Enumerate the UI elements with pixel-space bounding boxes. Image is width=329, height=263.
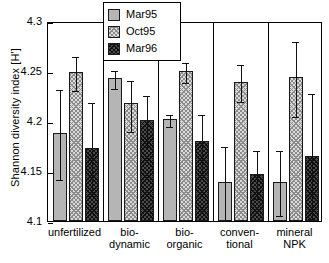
error-bar-line — [296, 42, 297, 117]
error-bar-line — [202, 115, 203, 175]
error-bar-cap-upper — [143, 96, 150, 97]
error-bar-cap-upper — [276, 151, 283, 152]
error-bar-line — [115, 71, 116, 89]
error-bar-cap-upper — [56, 90, 63, 91]
plot-inner — [48, 23, 321, 221]
error-bar-cap-lower — [166, 127, 173, 128]
y-tick-label: 4.25 — [12, 66, 42, 77]
error-bar-cap-upper — [221, 147, 228, 148]
error-bar-cap-lower — [127, 132, 134, 133]
bar — [179, 71, 193, 221]
error-bar-line — [131, 81, 132, 132]
error-bar-cap-lower — [308, 219, 315, 220]
error-bar-cap-upper — [198, 115, 205, 116]
y-tick-label: 4.15 — [12, 166, 42, 177]
legend-label: Mar96 — [126, 43, 157, 54]
y-tick-label: 4.1 — [12, 216, 42, 227]
error-bar-cap-lower — [182, 83, 189, 84]
error-bar-cap-lower — [237, 102, 244, 103]
legend-item[interactable]: Oct95 — [108, 23, 176, 40]
error-bar-line — [170, 115, 171, 127]
error-bar-cap-upper — [111, 71, 118, 72]
error-bar-line — [312, 94, 313, 219]
legend-swatch-icon — [108, 9, 120, 21]
error-bar-cap-upper — [253, 151, 260, 152]
group-separator — [268, 23, 269, 221]
y-tick-label: 4.3 — [12, 16, 42, 27]
error-bar-cap-lower — [111, 89, 118, 90]
chart-container: Shannon diversity index [H'] 4.14.154.24… — [0, 0, 329, 263]
y-tick-mark — [48, 23, 53, 24]
legend-item[interactable]: Mar96 — [108, 40, 176, 57]
y-tick-label: 4.2 — [12, 116, 42, 127]
bar — [69, 72, 83, 221]
y-tick-mark — [48, 223, 53, 224]
legend: Mar95Oct95Mar96 — [103, 2, 181, 61]
error-bar-cap-upper — [308, 94, 315, 95]
plot-area — [47, 22, 322, 222]
error-bar-cap-lower — [56, 180, 63, 181]
y-axis-tick-labels: 4.14.154.24.254.3 — [8, 0, 42, 263]
bar — [108, 78, 122, 221]
error-bar-line — [60, 90, 61, 180]
error-bar-cap-lower — [221, 221, 228, 222]
error-bar-line — [147, 96, 148, 147]
error-bar-line — [257, 151, 258, 199]
error-bar-line — [92, 103, 93, 196]
x-tick-label: mineral NPK — [261, 227, 328, 250]
error-bar-cap-lower — [292, 117, 299, 118]
error-bar-cap-upper — [182, 63, 189, 64]
error-bar-line — [280, 151, 281, 216]
legend-item[interactable]: Mar95 — [108, 6, 176, 23]
legend-label: Mar95 — [126, 9, 157, 20]
error-bar-line — [186, 63, 187, 83]
error-bar-line — [76, 57, 77, 91]
error-bar-cap-lower — [276, 216, 283, 217]
error-bar-cap-lower — [253, 199, 260, 200]
error-bar-cap-lower — [198, 175, 205, 176]
error-bar-cap-upper — [166, 115, 173, 116]
legend-label: Oct95 — [126, 26, 155, 37]
bar — [163, 119, 177, 221]
error-bar-cap-lower — [143, 147, 150, 148]
error-bar-cap-upper — [88, 103, 95, 104]
error-bar-cap-upper — [72, 57, 79, 58]
error-bar-line — [225, 147, 226, 221]
error-bar-cap-lower — [72, 91, 79, 92]
error-bar-cap-upper — [292, 42, 299, 43]
legend-swatch-icon — [108, 26, 120, 38]
group-separator — [213, 23, 214, 221]
error-bar-cap-lower — [88, 196, 95, 197]
y-tick-mark — [48, 73, 53, 74]
error-bar-line — [241, 65, 242, 102]
legend-swatch-icon — [108, 43, 120, 55]
error-bar-cap-upper — [237, 65, 244, 66]
error-bar-cap-upper — [127, 81, 134, 82]
y-tick-mark — [48, 123, 53, 124]
